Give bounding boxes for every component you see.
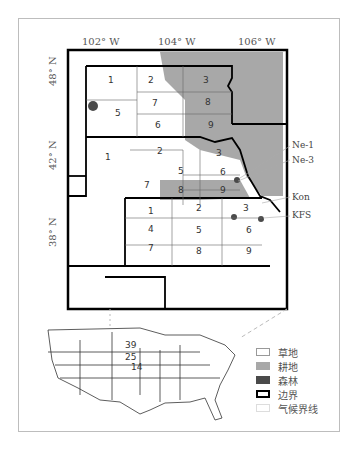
site-label-kfs: KFS xyxy=(292,210,311,220)
legend-grassland: 草地 xyxy=(256,345,318,359)
site-label-kon: Kon xyxy=(292,192,310,202)
legend-boundary: 边界 xyxy=(256,387,318,401)
site-label-ne3: Ne-3 xyxy=(292,155,314,165)
cropland-area xyxy=(160,52,283,200)
inset-link-line xyxy=(240,309,287,338)
legend: 草地 耕地 森林 边界 气候界线 xyxy=(256,345,318,415)
legend-cropland: 耕地 xyxy=(256,359,318,373)
legend-climate-line: 气候界线 xyxy=(256,401,318,415)
legend-forest: 森林 xyxy=(256,373,318,387)
site-label-ne1: Ne-1 xyxy=(292,140,314,150)
us-inset-map xyxy=(48,328,235,420)
